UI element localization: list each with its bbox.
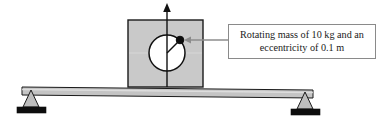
- left-support-base-plate: [17, 107, 46, 113]
- callout-leader: [184, 37, 228, 44]
- callout-line-1: Rotating mass of 10 kg and an: [240, 29, 364, 41]
- callout-line-2: eccentricity of 0.1 m: [260, 42, 344, 54]
- callout-text-box: Rotating mass of 10 kg and an eccentrici…: [228, 24, 376, 59]
- eccentric-mass-dot: [176, 36, 184, 44]
- beam: [22, 87, 313, 98]
- arrow-head: [163, 3, 171, 12]
- figure-canvas: [0, 0, 385, 118]
- right-support-base-plate: [291, 109, 320, 115]
- beam-vibration-figure: Rotating mass of 10 kg and an eccentrici…: [0, 0, 385, 118]
